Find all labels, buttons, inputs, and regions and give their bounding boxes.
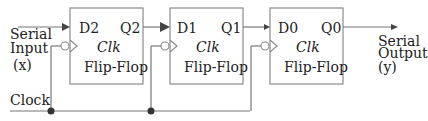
ff1-d-label: D1 [177, 21, 197, 35]
ff0-name-label: Flip-Flop [284, 60, 348, 74]
junction-dot [48, 108, 55, 115]
ff0-clk-label: Clk [296, 40, 320, 54]
ff1-clk-label: Clk [196, 40, 220, 54]
input-label-line2: Input [10, 41, 48, 55]
ff2-d-label: D2 [79, 21, 99, 35]
shift-register-diagram: Serial Input (x) Clock D2 Q2 Clk Flip-Fl… [0, 0, 428, 121]
clock-label: Clock [10, 93, 50, 107]
input-label-line3: (x) [13, 58, 32, 72]
ff0-q-label: Q0 [321, 21, 341, 35]
output-label-line3: (y) [378, 60, 397, 74]
input-label-line1: Serial [10, 27, 52, 41]
ff0-d-label: D0 [278, 21, 298, 35]
ff2-name-label: Flip-Flop [84, 60, 148, 74]
ff2-q-label: Q2 [120, 21, 140, 35]
junction-dot [148, 108, 155, 115]
ff1-q-label: Q1 [221, 21, 241, 35]
output-label-line2: Output [378, 46, 428, 60]
ff1-name-label: Flip-Flop [184, 60, 248, 74]
ff2-clk-label: Clk [97, 40, 121, 54]
arrow-head-icon [62, 23, 70, 31]
